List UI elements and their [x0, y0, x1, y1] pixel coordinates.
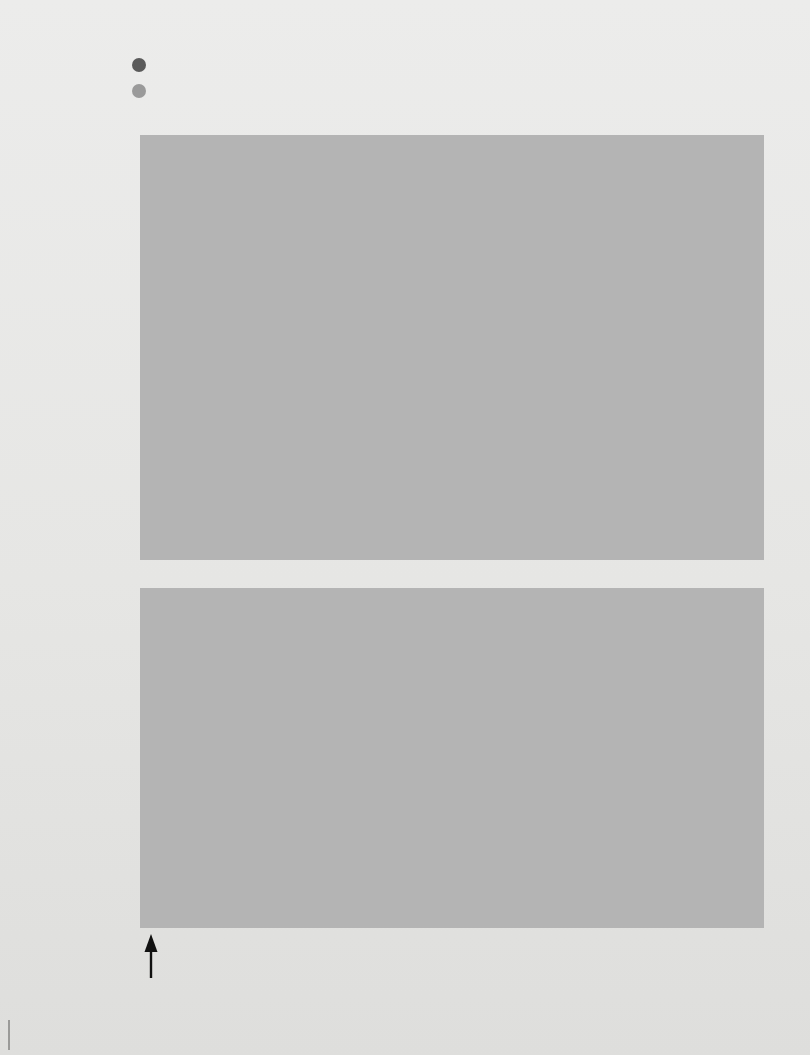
legend	[132, 52, 155, 104]
body-weight-plot	[140, 135, 764, 560]
legend-item-lesion	[132, 52, 155, 78]
figure-container	[0, 0, 810, 1055]
filled-circle-marker-icon	[132, 84, 146, 98]
operation-arrow-icon	[140, 934, 162, 980]
food-intake-plot	[140, 588, 764, 928]
page-edge-rule	[8, 1020, 10, 1050]
legend-item-control	[132, 78, 155, 104]
filled-circle-marker-icon	[132, 58, 146, 72]
